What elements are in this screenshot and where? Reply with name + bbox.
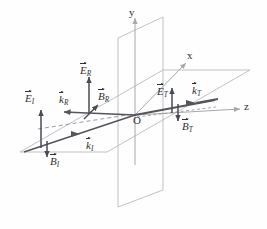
label-B-transmitted-symbol: B <box>182 120 189 132</box>
label-k-reflected-sub: R <box>64 99 68 107</box>
label-k-incident-symbol: k <box>86 139 91 151</box>
label-B-reflected-sub: R <box>105 96 109 104</box>
label-k-transmitted-symbol: k <box>192 84 197 96</box>
label-B-incident: BI <box>50 156 59 169</box>
label-B-reflected-symbol: B <box>98 90 105 102</box>
em-wave-interface-diagram: y x z O EI BI kI ER kR BR ET kT BT <box>0 0 267 229</box>
label-B-reflected: BR <box>98 91 109 104</box>
label-E-reflected-sub: R <box>87 70 91 78</box>
label-k-transmitted-sub: T <box>197 90 201 98</box>
axis-label-z: z <box>244 101 249 112</box>
dashed-construction-line <box>38 114 133 129</box>
label-E-transmitted-symbol: E <box>157 85 164 97</box>
label-B-transmitted-sub: T <box>189 126 193 134</box>
label-E-incident-sub: I <box>32 98 34 106</box>
label-k-incident-sub: I <box>91 145 93 153</box>
label-B-incident-symbol: B <box>50 155 57 167</box>
label-E-transmitted-sub: T <box>164 91 168 99</box>
label-B-transmitted: BT <box>182 121 193 134</box>
label-E-incident: EI <box>25 93 34 106</box>
label-E-transmitted: ET <box>157 86 168 99</box>
label-k-transmitted: kT <box>192 85 201 98</box>
interface-plane <box>118 17 163 207</box>
reflected-B-vector <box>84 105 98 119</box>
label-k-reflected-symbol: k <box>59 93 64 105</box>
origin-label: O <box>133 115 141 126</box>
label-E-incident-symbol: E <box>25 92 32 104</box>
label-k-incident: kI <box>86 140 93 153</box>
label-E-reflected-symbol: E <box>80 64 87 76</box>
label-E-reflected: ER <box>80 65 91 78</box>
label-B-incident-sub: I <box>57 161 59 169</box>
axis-label-x: x <box>187 50 193 61</box>
axis-label-y: y <box>129 7 135 18</box>
reflected-ray <box>64 112 135 115</box>
label-k-reflected: kR <box>59 94 68 107</box>
